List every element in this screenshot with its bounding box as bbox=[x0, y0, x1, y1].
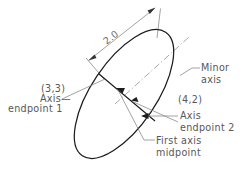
dimension-value-label: 2.0 bbox=[101, 28, 121, 47]
minor-axis-line1: Minor bbox=[201, 62, 229, 73]
minor-axis-line2: axis bbox=[201, 74, 221, 85]
dimension-extension-line-upper bbox=[157, 9, 161, 39]
label-first-axis-midpoint: First axis midpoint bbox=[156, 135, 201, 158]
endpoint2-arrowhead-lower bbox=[141, 113, 149, 119]
minor-axis-callout-group bbox=[180, 68, 200, 76]
endpoint2-line1: Axis bbox=[180, 110, 201, 121]
midpoint-line1: First axis bbox=[156, 135, 201, 146]
label-minor-axis: Minor axis bbox=[201, 62, 229, 85]
midpoint-leader-line bbox=[118, 89, 145, 140]
endpoint2-coordinate: (4,2) bbox=[178, 94, 202, 105]
minor-axis-leader-line bbox=[180, 68, 192, 76]
midpoint-line2: midpoint bbox=[156, 147, 201, 158]
label-axis-endpoint-1: (3,3) Axis— endpoint 1 bbox=[8, 83, 71, 114]
ellipse-diagram-canvas: 2.0 ( bbox=[0, 0, 248, 176]
endpoint2-line2: endpoint 2 bbox=[180, 122, 235, 133]
endpoint2-callout-group bbox=[131, 97, 178, 122]
endpoint1-line2: endpoint 1 bbox=[8, 103, 63, 114]
dimension-2-0-group: 2.0 bbox=[86, 8, 161, 80]
dimension-line bbox=[89, 9, 155, 61]
label-axis-endpoint-2: (4,2) Axis endpoint 2 bbox=[178, 94, 235, 133]
cad-diagram: 2.0 ( bbox=[0, 0, 248, 176]
